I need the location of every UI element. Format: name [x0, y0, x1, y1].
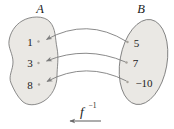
- dot-a-8: [38, 83, 40, 85]
- set-a-element-8: 8: [27, 79, 33, 91]
- diagram-svg: A B 1 3 8 5 7 −10 f −1: [0, 0, 174, 129]
- mapping-arrow-5-to-1: [47, 29, 127, 42]
- set-b-element-neg10: −10: [135, 77, 153, 89]
- function-label: f: [80, 104, 86, 119]
- set-a-element-1: 1: [27, 36, 33, 48]
- function-mapping-diagram: A B 1 3 8 5 7 −10 f −1: [0, 0, 174, 129]
- set-b-label: B: [137, 2, 145, 16]
- set-a-label: A: [35, 2, 44, 16]
- dot-b-neg10: [126, 81, 128, 83]
- set-b-element-5: 5: [134, 37, 140, 49]
- set-a-blob: [9, 17, 58, 105]
- dot-a-3: [37, 62, 39, 64]
- mapping-arrow-7-to-3: [47, 53, 126, 62]
- set-b-ellipse: [113, 16, 174, 109]
- set-a-element-3: 3: [27, 57, 33, 69]
- dot-a-1: [37, 40, 39, 42]
- set-b-element-7: 7: [133, 57, 139, 69]
- function-superscript: −1: [89, 101, 97, 110]
- dot-b-7: [125, 61, 127, 63]
- mapping-arrow-neg10-to-8: [47, 71, 127, 82]
